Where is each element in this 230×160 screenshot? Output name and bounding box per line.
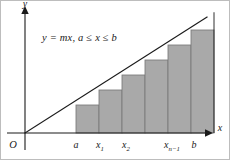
tick-base: a — [74, 139, 79, 150]
riemann-bar — [145, 60, 168, 133]
x-tick-label-a: a — [74, 139, 79, 150]
x-tick-label-b: b — [192, 139, 197, 150]
riemann-bar — [76, 105, 99, 133]
x-tick-label-x1: x1 — [95, 139, 104, 152]
origin-label: O — [9, 139, 17, 150]
riemann-sum-figure: y x O y = mx, a ≤ x ≤ b ax1x2xn−1b — [0, 0, 230, 160]
bars-group — [76, 30, 214, 133]
tick-subscript: 2 — [127, 145, 131, 152]
x-axis-label: x — [217, 122, 223, 133]
riemann-bar — [99, 90, 122, 133]
tick-base: b — [192, 139, 197, 150]
x-tick-labels-group: ax1x2xn−1b — [74, 139, 197, 152]
tick-subscript: n−1 — [169, 145, 180, 152]
riemann-bar — [122, 75, 145, 133]
equation-text: y = mx, a ≤ x ≤ b — [41, 32, 117, 43]
tick-subscript: 1 — [101, 145, 104, 152]
riemann-bar — [191, 30, 214, 133]
x-tick-label-xn-1: xn−1 — [163, 139, 180, 152]
figure-canvas: y x O y = mx, a ≤ x ≤ b ax1x2xn−1b — [0, 0, 230, 160]
equation-annotation: y = mx, a ≤ x ≤ b — [41, 32, 117, 43]
y-axis-label: y — [22, 0, 28, 9]
x-tick-label-x2: x2 — [121, 139, 130, 152]
riemann-bar — [168, 45, 191, 133]
